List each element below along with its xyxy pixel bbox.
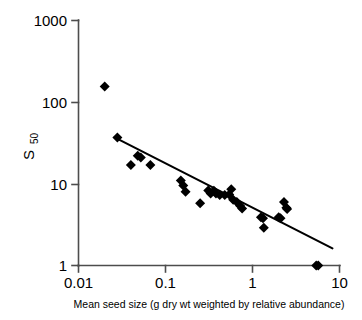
x-tick-label-1: 1 bbox=[248, 274, 256, 291]
x-tick-label-0-01: 0.01 bbox=[64, 274, 93, 291]
y-tick-label-10: 10 bbox=[50, 176, 67, 193]
data-point bbox=[126, 160, 136, 170]
y-tick-marks bbox=[72, 21, 79, 266]
data-points-group bbox=[100, 82, 324, 271]
data-point bbox=[100, 82, 110, 92]
x-tick-label-0-1: 0.1 bbox=[155, 274, 176, 291]
data-point bbox=[195, 198, 205, 208]
scatter-plot-figure: 1000 100 10 1 0.01 0.1 1 10 S 50 Mean se… bbox=[0, 0, 362, 320]
data-point bbox=[145, 160, 155, 170]
x-tick-label-10: 10 bbox=[331, 274, 348, 291]
x-tick-marks bbox=[79, 266, 340, 273]
y-axis-title-subscript: 50 bbox=[29, 132, 40, 144]
axes-group bbox=[78, 20, 340, 266]
plot-canvas: 1000 100 10 1 0.01 0.1 1 10 S 50 Mean se… bbox=[0, 0, 362, 320]
y-tick-label-1000: 1000 bbox=[34, 12, 67, 29]
y-tick-label-100: 100 bbox=[42, 94, 67, 111]
x-tick-labels: 0.01 0.1 1 10 bbox=[64, 274, 348, 291]
y-tick-label-1: 1 bbox=[59, 257, 67, 274]
y-axis-title-base: S bbox=[20, 150, 37, 160]
x-axis-title: Mean seed size (g dry wt weighted by rel… bbox=[74, 298, 345, 310]
data-point bbox=[259, 223, 269, 233]
y-axis-title: S 50 bbox=[20, 132, 40, 160]
